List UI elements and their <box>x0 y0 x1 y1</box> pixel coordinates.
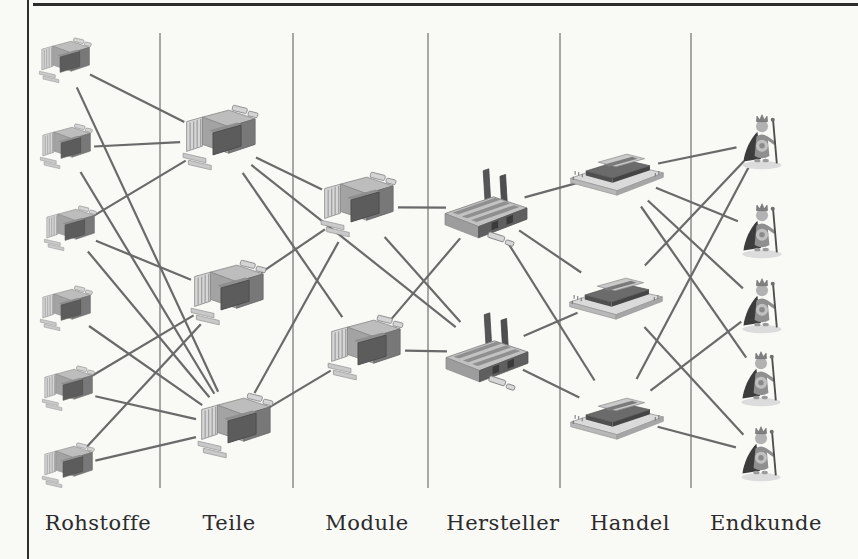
column-label-rohstoffe: Rohstoffe <box>45 511 151 535</box>
supply-link-R2-T1 <box>94 142 180 146</box>
node-E5 <box>736 425 786 483</box>
factory-icon <box>184 259 272 331</box>
node-M2 <box>321 314 409 386</box>
node-Ha3 <box>568 389 666 443</box>
supply-link-R5-T2 <box>92 315 194 375</box>
network-lines-layer <box>0 0 858 559</box>
column-label-hersteller: Hersteller <box>446 511 559 535</box>
node-T2 <box>184 259 272 331</box>
factory-icon <box>314 171 402 243</box>
node-E1 <box>737 113 787 171</box>
small-factory-icon <box>39 205 101 255</box>
supply-link-T1-M1 <box>256 158 322 190</box>
supply-link-Ha1-E2 <box>656 188 738 221</box>
trade-center-icon <box>567 269 665 323</box>
supply-link-R3-T2 <box>96 241 191 280</box>
small-factory-icon <box>37 365 99 415</box>
node-E2 <box>737 202 787 260</box>
end-customer-king-icon <box>737 113 787 171</box>
supply-link-Ha1-E1 <box>658 147 736 163</box>
node-E4 <box>736 350 786 408</box>
column-label-teile: Teile <box>202 511 255 535</box>
node-R4 <box>35 285 97 335</box>
factory-icon <box>321 314 409 386</box>
small-factory-icon <box>34 37 96 87</box>
supply-link-R4-T3 <box>89 326 202 405</box>
manufacturer-plant-icon <box>439 167 533 249</box>
node-R3 <box>39 205 101 255</box>
end-customer-king-icon <box>736 425 786 483</box>
column-label-handel: Handel <box>590 511 670 535</box>
end-customer-king-icon <box>736 350 786 408</box>
column-label-endkunde: Endkunde <box>710 511 822 535</box>
column-label-module: Module <box>325 511 408 535</box>
node-Ha1 <box>568 145 666 199</box>
small-factory-icon <box>35 123 97 173</box>
factory-icon <box>191 392 279 464</box>
node-Ha2 <box>567 269 665 323</box>
supply-link-Ha3-E3 <box>651 322 742 391</box>
node-E3 <box>737 277 787 335</box>
trade-center-icon <box>568 389 666 443</box>
supply-link-R5-T3 <box>95 396 196 419</box>
supply-link-Ha3-E5 <box>658 427 736 448</box>
trade-center-icon <box>568 145 666 199</box>
supply-link-M2-H1 <box>391 238 460 319</box>
node-H2 <box>440 311 534 393</box>
small-factory-icon <box>35 285 97 335</box>
supply-link-R6-T2 <box>87 324 201 446</box>
scanned-figure-page: RohstoffeTeileModuleHerstellerHandelEndk… <box>0 0 858 559</box>
node-T3 <box>191 392 279 464</box>
node-T1 <box>176 104 264 176</box>
node-R5 <box>37 365 99 415</box>
node-R1 <box>34 37 96 87</box>
supply-link-R3-T1 <box>94 161 186 216</box>
end-customer-king-icon <box>737 202 787 260</box>
supply-link-R1-T1 <box>90 75 184 122</box>
end-customer-king-icon <box>737 277 787 335</box>
node-R2 <box>35 123 97 173</box>
manufacturer-plant-icon <box>440 311 534 393</box>
factory-icon <box>176 104 264 176</box>
supply-link-R6-T3 <box>95 437 196 461</box>
node-R6 <box>37 442 99 492</box>
small-factory-icon <box>37 442 99 492</box>
node-M1 <box>314 171 402 243</box>
node-H1 <box>439 167 533 249</box>
